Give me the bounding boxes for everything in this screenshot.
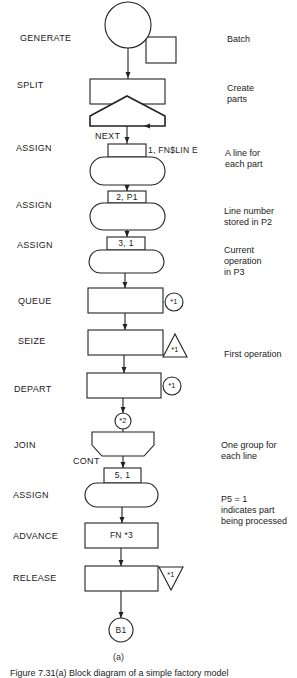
marker-join-entry: *2 <box>114 416 132 425</box>
marker-b1: B1 <box>109 625 133 635</box>
join-block <box>92 432 154 456</box>
caption-part: (a) <box>113 652 124 662</box>
figure-caption: Figure 7.31(a) Block diagram of a simple… <box>10 668 229 678</box>
operand-advance: FN *3 <box>85 530 158 540</box>
operand-assign-1: 1, FN$LIN E <box>148 145 198 155</box>
generate-block <box>105 2 176 63</box>
operand-assign-3: 3, 1 <box>107 238 145 248</box>
marker-seize: *1 <box>166 345 184 354</box>
marker-queue: *1 <box>165 297 183 306</box>
marker-release: *1 <box>162 570 180 579</box>
operand-assign-2: 2, P1 <box>108 192 146 202</box>
operand-assign-5: 5, 1 <box>104 470 141 480</box>
split-block <box>90 79 165 129</box>
marker-depart: *1 <box>163 381 181 390</box>
